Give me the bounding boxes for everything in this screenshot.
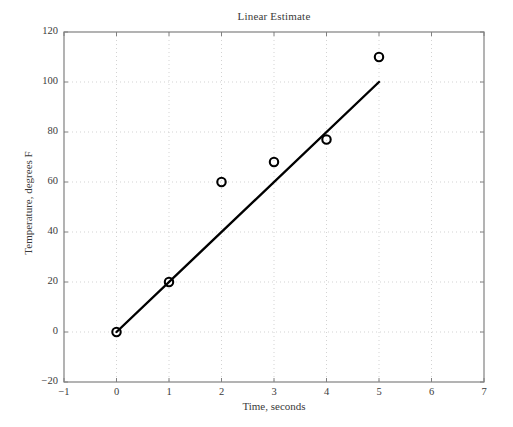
x-tick-label: 5 bbox=[364, 386, 394, 397]
x-tick-label: 4 bbox=[312, 386, 342, 397]
x-tick-label: 0 bbox=[102, 386, 132, 397]
y-tick-label: −20 bbox=[24, 375, 58, 386]
y-tick-label: 80 bbox=[24, 125, 58, 136]
plot-area bbox=[0, 0, 513, 427]
y-tick-label: 0 bbox=[24, 325, 58, 336]
y-tick-label: 120 bbox=[24, 25, 58, 36]
x-tick-label: 6 bbox=[417, 386, 447, 397]
x-tick-label: 1 bbox=[154, 386, 184, 397]
x-tick-label: 7 bbox=[469, 386, 499, 397]
y-tick-label: 60 bbox=[24, 175, 58, 186]
x-tick-label: 3 bbox=[259, 386, 289, 397]
x-tick-label: −1 bbox=[49, 386, 79, 397]
fit-line bbox=[117, 82, 380, 332]
y-tick-label: 40 bbox=[24, 225, 58, 236]
y-tick-label: 100 bbox=[24, 75, 58, 86]
figure-canvas: Linear Estimate Time, seconds Temperatur… bbox=[0, 0, 513, 427]
y-tick-label: 20 bbox=[24, 275, 58, 286]
x-tick-label: 2 bbox=[207, 386, 237, 397]
